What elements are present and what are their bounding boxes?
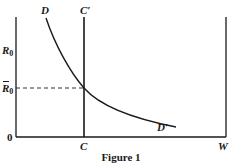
label-rbar0-sub: 0 [9,87,13,96]
figure-diagram [0,0,230,166]
label-rbar0: R0 [2,83,13,96]
label-rbar0-base: R [2,83,9,94]
label-d-prime: D′ [157,122,168,133]
label-r0: R0 [2,45,13,58]
figure-caption: Figure 1 [0,152,230,163]
label-c-prime: C′ [80,5,90,16]
dd-prime-curve [46,18,176,127]
label-w: W [218,141,228,152]
label-r0-sub: 0 [9,49,13,58]
label-origin: 0 [7,132,13,143]
label-d: D [41,5,49,16]
label-c: C [80,141,87,152]
